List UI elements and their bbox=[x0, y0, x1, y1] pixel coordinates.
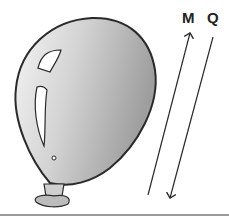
balloon-knot bbox=[44, 184, 64, 196]
bottom-divider bbox=[0, 214, 229, 216]
highlight-dot bbox=[52, 156, 56, 160]
label-m: M bbox=[182, 9, 195, 26]
arrow-m bbox=[148, 33, 190, 195]
diagram-canvas bbox=[0, 0, 229, 220]
balloon bbox=[15, 18, 155, 207]
balloon-knot-base bbox=[35, 195, 69, 207]
arrow-q bbox=[170, 37, 213, 198]
label-q: Q bbox=[207, 9, 219, 26]
